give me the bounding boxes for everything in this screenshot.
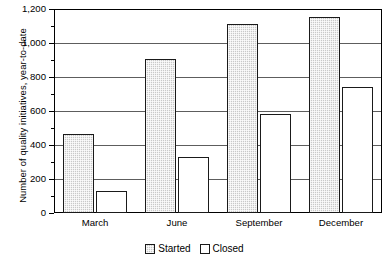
y-axis-tick-label: 1,000 xyxy=(22,38,46,48)
legend-label-started: Started xyxy=(158,243,190,254)
y-axis-tick-label: 200 xyxy=(30,174,46,184)
legend-item-started[interactable]: Started xyxy=(145,243,190,254)
plot-area xyxy=(54,9,382,213)
legend-swatch-closed-icon xyxy=(200,244,210,254)
x-axis-label-march: March xyxy=(54,217,136,228)
y-axis-tick-label: 1,200 xyxy=(22,4,46,14)
bar-march-closed xyxy=(96,191,127,213)
bar-september-closed xyxy=(260,114,291,213)
x-axis-label-june: June xyxy=(136,217,218,228)
chart-legend: Started Closed xyxy=(0,243,389,254)
bar-december-started xyxy=(309,17,340,213)
y-axis-tick-label: 800 xyxy=(30,72,46,82)
bar-march-started xyxy=(63,134,94,213)
bar-june-closed xyxy=(178,157,209,213)
y-axis-tick xyxy=(49,213,54,214)
legend-label-closed: Closed xyxy=(213,243,244,254)
x-axis-label-september: September xyxy=(218,217,300,228)
bar-june-started xyxy=(145,59,176,213)
y-axis-tick-label: 600 xyxy=(30,106,46,116)
x-axis-label-december: December xyxy=(300,217,382,228)
y-axis-tick-label: 0 xyxy=(41,208,46,218)
bar-chart: Number of quality initiatives, year-to-d… xyxy=(0,0,389,267)
legend-swatch-started-icon xyxy=(145,244,155,254)
bar-september-started xyxy=(227,24,258,213)
y-axis-tick-label: 400 xyxy=(30,140,46,150)
bar-december-closed xyxy=(342,87,373,213)
legend-item-closed[interactable]: Closed xyxy=(200,243,244,254)
